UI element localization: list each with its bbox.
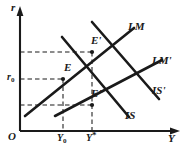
x-tick-label-y0-subscript: 0 [63, 137, 67, 145]
point-label-e-prime-mark: ' [98, 34, 101, 46]
point-e-double [90, 103, 94, 107]
y-axis-label: r [11, 2, 15, 13]
x-tick-label-y-star: Y* [86, 133, 97, 143]
point-label-e-double-mark: " [98, 87, 104, 99]
axes-group [17, 6, 180, 134]
point-label-e-prime: E' [91, 35, 101, 46]
curve-label-is-prime-base: IS [152, 84, 162, 96]
curve-label-lm-prime-base: LM [152, 54, 169, 66]
is-lm-figure: r Y O r0 Y0 Y* LM LM' IS' IS E E' E" [0, 0, 185, 151]
origin-label: O [8, 131, 16, 142]
curve-label-is-prime-mark: ' [162, 84, 165, 96]
y-tick-label-r0: r0 [7, 72, 14, 82]
point-label-e-double: E" [91, 88, 104, 99]
point-e [61, 77, 65, 81]
x-tick-label-y-star-mark: * [92, 130, 97, 140]
figure-canvas [0, 0, 185, 151]
point-e-prime [90, 50, 94, 54]
curve-label-is: IS [125, 110, 135, 121]
x-tick-label-y0: Y0 [57, 133, 67, 143]
y-tick-label-r0-subscript: 0 [11, 76, 15, 84]
point-label-e: E [64, 62, 71, 73]
curve-label-lm: LM [128, 21, 145, 32]
curve-label-lm-prime: LM' [152, 55, 172, 66]
curve-label-is-prime: IS' [152, 85, 165, 96]
x-axis-label: Y [168, 133, 175, 144]
y-axis-arrowhead [17, 6, 24, 16]
curve-label-lm-prime-mark: ' [169, 54, 172, 66]
